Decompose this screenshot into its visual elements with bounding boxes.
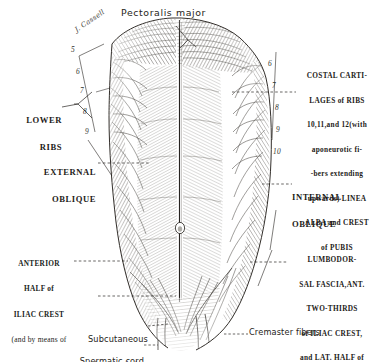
costal-line-3: 10,11,and 12(with bbox=[298, 121, 376, 129]
label-spermatic-cord: Spermatic cord bbox=[0, 340, 144, 362]
lumbo-line-5: and LAT. HALF of bbox=[287, 354, 377, 362]
lumbo-line-1: LUMBODOR- bbox=[287, 256, 377, 264]
costal-line-4: aponeurotic fi- bbox=[298, 146, 376, 154]
label-internal-oblique: INTERNAL OBLIQUE bbox=[292, 175, 376, 247]
anatomical-plate: Pectoralis major J. Cassell 5 6 7 8 9 6 … bbox=[0, 0, 377, 362]
label-pectoralis-major: Pectoralis major bbox=[121, 8, 206, 18]
rib-number-right-8: 8 bbox=[275, 104, 279, 112]
lower-ribs-line1: LOWER bbox=[0, 116, 62, 125]
rib-number-left-8: 8 bbox=[83, 108, 87, 116]
rib-number-left-5: 5 bbox=[71, 46, 75, 54]
rib-number-right-10: 10 bbox=[273, 148, 281, 156]
rib-number-left-9: 9 bbox=[85, 128, 89, 136]
costal-line-1: COSTAL CARTI- bbox=[298, 72, 376, 80]
rib-number-right-9: 9 bbox=[276, 126, 280, 134]
spermatic-cord-line1: Spermatic cord bbox=[0, 357, 144, 362]
lumbo-line-3: TWO-THIRDS bbox=[287, 305, 377, 313]
torso-body bbox=[100, 10, 280, 360]
internal-oblique-line1: INTERNAL bbox=[292, 193, 376, 202]
lumbo-line-2: SAL FASCIA,ANT. bbox=[287, 281, 377, 289]
rib-number-left-6: 6 bbox=[76, 68, 80, 76]
iliac-line-2: HALF of bbox=[1, 285, 77, 293]
label-cremaster-fibers: Cremaster fibers bbox=[249, 328, 320, 337]
rib-number-right-6: 6 bbox=[268, 60, 272, 68]
label-external-oblique: EXTERNAL OBLIQUE bbox=[0, 150, 96, 222]
costal-line-2: LAGES of RIBS bbox=[298, 97, 376, 105]
iliac-line-1: ANTERIOR bbox=[1, 260, 77, 268]
label-lumbodorsal-fascia: LUMBODOR- SAL FASCIA,ANT. TWO-THIRDS of … bbox=[287, 240, 377, 362]
external-oblique-line1: EXTERNAL bbox=[0, 168, 96, 177]
internal-oblique-line2: OBLIQUE bbox=[292, 220, 376, 229]
rib-number-left-7: 7 bbox=[80, 87, 84, 95]
rib-number-right-7: 7 bbox=[272, 82, 276, 90]
external-oblique-line2: OBLIQUE bbox=[0, 195, 96, 204]
